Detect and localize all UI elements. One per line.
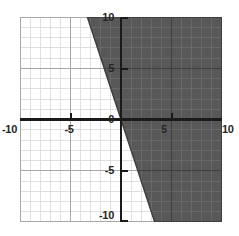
y-tick-label-pos5: 5 (94, 62, 114, 74)
x-tick-label-pos10: 10 (222, 123, 239, 135)
coordinate-plane-graph: -10 -5 5 10 10 5 0 -5 -10 (0, 0, 239, 236)
y-tick-label-neg5: -5 (92, 164, 114, 176)
plot-area (20, 17, 222, 222)
axes (20, 17, 222, 222)
y-tick-label-neg10: -10 (88, 209, 114, 221)
x-tick-label-neg5: -5 (56, 123, 82, 135)
origin-label: 0 (100, 113, 114, 125)
x-tick-label-pos5: 5 (156, 123, 172, 135)
x-tick-label-neg10: -10 (2, 123, 28, 135)
y-tick-label-pos10: 10 (92, 11, 114, 23)
